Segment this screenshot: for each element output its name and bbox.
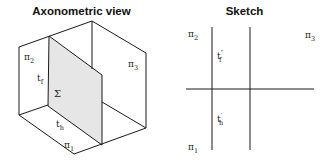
axonometric-drawing [0, 0, 163, 165]
sketch-drawing [163, 0, 326, 165]
label-pi2: π2 [24, 53, 34, 64]
sketch-label-pi1: π1 [188, 143, 198, 154]
sketch-label-pi3: π3 [305, 31, 315, 42]
axonometric-view-panel: Axonometric view π2 π3 tf Σ th π1 [0, 0, 163, 165]
sketch-panel: Sketch π2 π3 t″f t′h π1 [163, 0, 326, 165]
label-tf: tf [37, 74, 43, 85]
sketch-label-pi2: π2 [188, 30, 198, 41]
sketch-label-tf-double-prime: t″f [217, 50, 221, 63]
sketch-label-th-prime: t′h [217, 113, 223, 126]
label-pi1: π1 [64, 141, 74, 152]
label-th: th [56, 120, 64, 131]
label-sigma: Σ [54, 89, 61, 99]
label-pi3: π3 [128, 60, 138, 71]
